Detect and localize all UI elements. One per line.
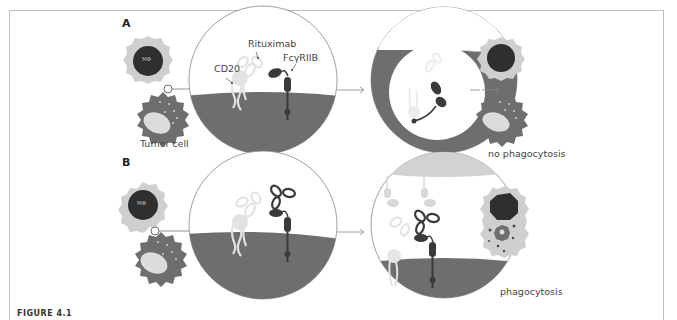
fcgriib-label: FcγRIIB (283, 52, 318, 63)
macrophage-b-phagocytosis (480, 186, 529, 258)
arrow-b1 (337, 229, 364, 235)
outcome-label-a: no phagocytosis (488, 148, 566, 159)
macrophage-label-b: MΦ (137, 200, 146, 206)
panel-label-a: A (122, 17, 131, 30)
macrophage-label-a: MΦ (142, 56, 151, 62)
tumor-cell-b (135, 227, 187, 287)
cd20-label: CD20 (214, 63, 240, 74)
macrophage-b (118, 182, 168, 233)
tumor-cell-label: Tumor cell (140, 138, 189, 149)
rituximab-label: Rituximab (248, 38, 296, 49)
arrow-a1 (337, 87, 364, 93)
panel-label-b: B (122, 156, 130, 169)
figure-caption: FIGURE 4.1 (17, 309, 72, 318)
zoom-circle-b1 (185, 151, 340, 300)
outcome-label-b: phagocytosis (500, 286, 563, 297)
zoom-circle-a1 (185, 6, 340, 160)
